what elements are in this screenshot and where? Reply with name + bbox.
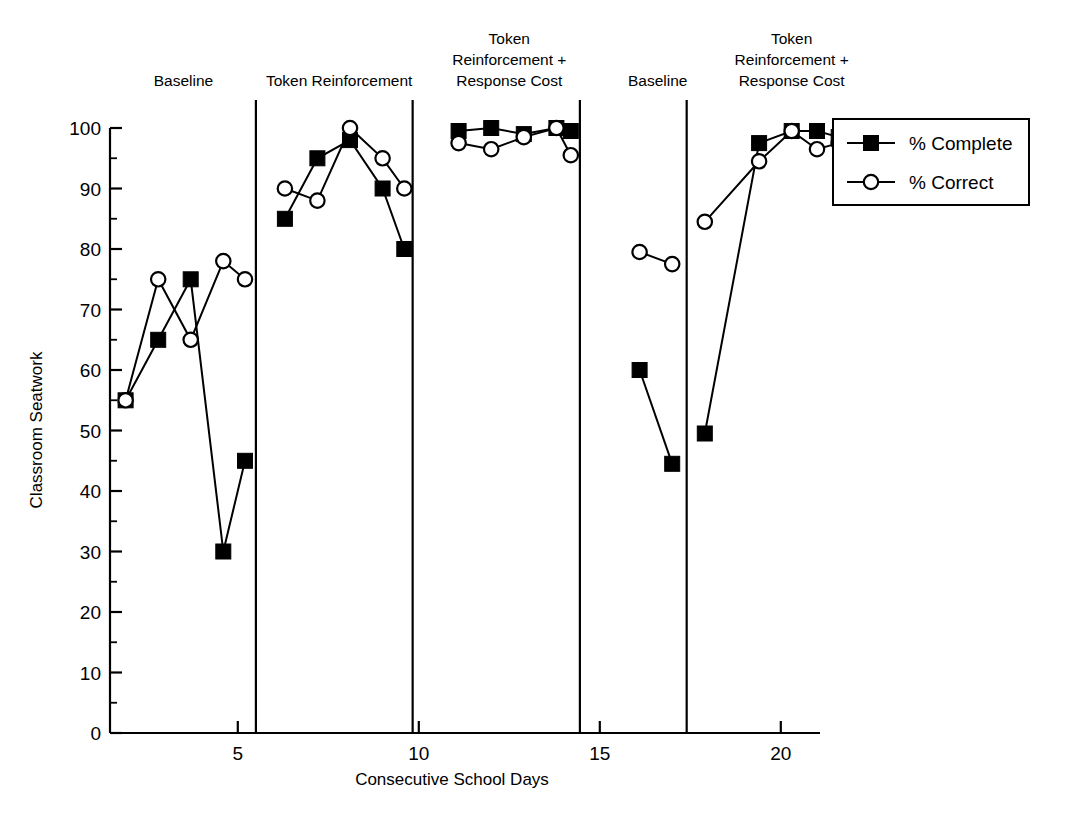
data-point-marker: [632, 363, 647, 378]
phase-label: Baseline: [154, 72, 213, 89]
data-point-marker: [484, 142, 498, 156]
y-tick-label: 70: [80, 300, 101, 321]
data-point-marker: [752, 154, 766, 168]
data-point-marker: [238, 453, 253, 468]
data-point-marker: [549, 121, 563, 135]
chart-stage: 0102030405060708090100 5101520 BaselineT…: [0, 0, 1065, 830]
data-point-marker: [665, 257, 679, 271]
y-tick-label: 100: [69, 118, 101, 139]
data-point-marker: [216, 254, 230, 268]
data-point-marker: [632, 245, 646, 259]
data-point-marker: [118, 393, 132, 407]
y-tick-label: 90: [80, 179, 101, 200]
phase-label: Token Reinforcement: [266, 72, 413, 89]
x-tick-label: 10: [408, 743, 429, 764]
data-point-marker: [183, 272, 198, 287]
data-point-marker: [810, 142, 824, 156]
legend-group[interactable]: % Complete% Correct: [833, 119, 1029, 205]
data-point-marker: [343, 121, 357, 135]
legend-label: % Complete: [909, 133, 1013, 154]
legend-label: % Correct: [909, 172, 994, 193]
x-tick-label: 20: [770, 743, 791, 764]
data-point-marker: [278, 181, 292, 195]
phase-label: Token: [489, 30, 530, 47]
y-tick-label: 60: [80, 360, 101, 381]
x-axis-title: Consecutive School Days: [355, 770, 549, 789]
y-tick-label: 20: [80, 602, 101, 623]
legend-item[interactable]: % Correct: [847, 172, 994, 193]
data-point-marker: [397, 181, 411, 195]
data-point-marker: [151, 332, 166, 347]
data-point-marker: [238, 272, 252, 286]
phase-label: Reinforcement +: [735, 51, 849, 68]
data-point-marker: [484, 121, 499, 136]
phase-label: Token: [771, 30, 812, 47]
phase-label: Reinforcement +: [452, 51, 566, 68]
data-point-marker: [752, 136, 767, 151]
x-tick-label: 5: [233, 743, 244, 764]
data-point-marker: [698, 215, 712, 229]
data-point-marker: [184, 333, 198, 347]
y-tick-label: 40: [80, 481, 101, 502]
x-tick-label: 15: [589, 743, 610, 764]
data-point-marker: [810, 124, 825, 139]
data-point-marker: [785, 124, 799, 138]
phase-label: Response Cost: [456, 72, 563, 89]
data-point-marker: [375, 181, 390, 196]
legend-marker-square: [864, 136, 879, 151]
data-point-marker: [564, 148, 578, 162]
data-point-marker: [451, 136, 465, 150]
data-point-marker: [563, 124, 578, 139]
y-tick-label: 0: [90, 723, 101, 744]
y-tick-label: 30: [80, 542, 101, 563]
data-point-marker: [697, 426, 712, 441]
y-axis-title: Classroom Seatwork: [27, 351, 46, 508]
data-point-marker: [375, 151, 389, 165]
legend-item[interactable]: % Complete: [847, 133, 1013, 154]
data-point-marker: [397, 242, 412, 257]
phase-label: Response Cost: [739, 72, 846, 89]
data-point-marker: [151, 272, 165, 286]
legend-marker-circle: [864, 175, 878, 189]
data-point-marker: [216, 544, 231, 559]
y-tick-label: 80: [80, 239, 101, 260]
data-point-marker: [310, 193, 324, 207]
phase-label: Baseline: [628, 72, 687, 89]
data-point-marker: [310, 151, 325, 166]
data-point-marker: [665, 456, 680, 471]
data-point-marker: [277, 211, 292, 226]
classroom-seatwork-chart: 0102030405060708090100 5101520 BaselineT…: [0, 0, 1065, 830]
y-tick-label: 10: [80, 663, 101, 684]
y-tick-label: 50: [80, 421, 101, 442]
data-point-marker: [517, 130, 531, 144]
